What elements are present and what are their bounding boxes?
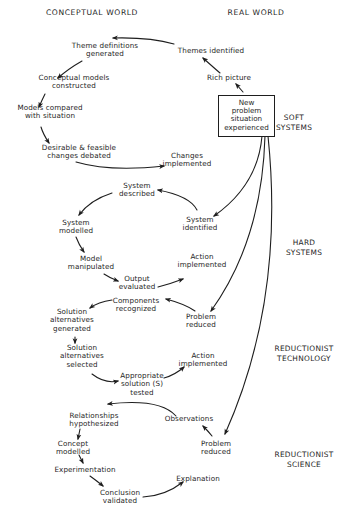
arrow-problem-to-components [166,299,195,311]
heading-real-world: REAL WORLD [228,8,285,18]
arrow-compared-to-debated [41,127,49,143]
node-problem-reduced-sci: Problem reduced [201,440,231,457]
node-explanation: Explanation [176,475,220,483]
node-output-evaluated: Output evaluated [119,275,156,292]
heading-conceptual-world: CONCEPTUAL WORLD [46,8,138,18]
node-action-implemented-tech: Action implemented [179,352,228,369]
node-appropriate-solution-tested: Appropriate solution (S) tested [120,372,164,397]
arrow-debated-to-changes [76,162,164,168]
node-system-modelled: System modelled [59,219,93,236]
arrow-output-to-action [158,279,183,287]
domain-label-soft-systems: SOFT SYSTEMS [276,113,312,132]
node-models-compared: Models compared with situation [17,104,82,121]
arrow-identified-to-described [158,190,197,210]
node-experimentation: Experimentation [54,466,115,474]
node-rich-picture: Rich picture [207,74,251,82]
node-system-described: System described [119,182,155,199]
node-problem-reduced-tech: Problem reduced [186,313,216,330]
arrow-manipulated-to-output [104,274,118,281]
arrow-problem-to-observations [203,426,212,436]
arrow-conclusion-to-explanation [143,482,183,497]
node-solution-alternatives-selected: Solution alternatives selected [60,344,104,369]
systems-approaches-diagram: CONCEPTUAL WORLD REAL WORLD New problem … [0,0,348,516]
node-solution-alternatives-generated: Solution alternatives generated [50,308,94,333]
arrow-described-to-modelled [79,193,112,215]
node-components-recognized: Components recognized [113,297,159,314]
node-observations: Observations [165,415,214,423]
node-conclusion-validated: Conclusion validated [100,489,140,506]
domain-label-reductionist-technology: REDUCTIONIST TECHNOLOGY [274,344,333,363]
arrow-components-to-generated [90,300,112,308]
arrow-selected-to-tested [92,374,118,382]
node-concept-modelled: Concept modelled [56,440,90,457]
domain-label-reductionist-science: REDUCTIONIST SCIENCE [274,450,333,469]
node-system-identified: System identified [183,216,218,233]
arrow-relationships-to-concept [78,429,80,439]
arrow-rich-to-themes [203,58,220,73]
domain-label-hard-systems: HARD SYSTEMS [286,238,322,257]
node-changes-implemented: Changes implemented [163,152,212,169]
node-model-manipulated: Model manipulated [68,255,114,272]
new-problem-situation-box: New problem situation experienced [218,95,275,137]
arrow-box-to-system-identified [214,136,262,216]
node-relationships-hypothesized: Relationships hypothesized [69,412,118,429]
node-changes-debated: Desirable & feasible changes debated [42,144,116,161]
node-action-implemented-hard: Action implemented [178,253,227,270]
node-conceptual-models-constructed: Conceptual models constructed [39,74,110,91]
node-themes-identified: Themes identified [178,47,244,55]
arrow-box-to-rich-picture [236,84,243,92]
arrow-experimentation-to-conclusion [90,476,103,486]
arrow-modelled-to-manipulated [76,237,84,252]
node-theme-definitions-generated: Theme definitions generated [72,42,138,59]
